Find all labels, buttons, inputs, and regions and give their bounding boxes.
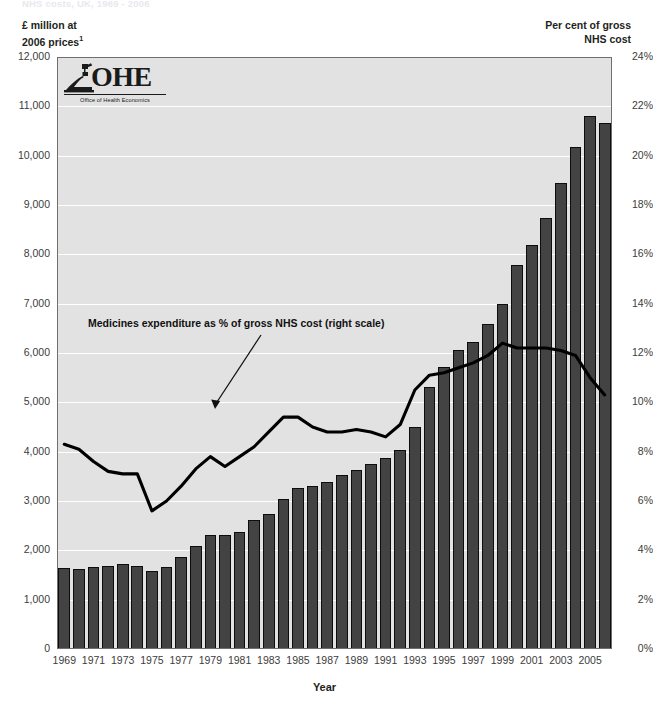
bar-2003 <box>555 183 567 649</box>
bar-2004 <box>570 147 582 649</box>
bar-1996 <box>453 350 465 649</box>
bar-1977 <box>175 557 187 649</box>
right-axis-title-line1: Per cent of gross <box>545 19 631 31</box>
bar-1998 <box>482 324 494 649</box>
bar-1992 <box>394 450 406 649</box>
left-tick-12000: 12,000 <box>0 50 50 62</box>
left-axis-title-line2: 2006 prices <box>22 36 79 48</box>
bar-1987 <box>321 482 333 649</box>
x-axis-title: Year <box>0 681 649 693</box>
ohe-wordmark: OHE <box>91 62 152 92</box>
bar-1974 <box>131 566 143 649</box>
plot-area <box>57 57 612 649</box>
left-tick-10000: 10,000 <box>0 149 50 161</box>
bar-1975 <box>146 571 158 649</box>
bar-1976 <box>161 567 173 649</box>
left-tick-0: 0 <box>0 642 50 654</box>
bar-1979 <box>205 535 217 649</box>
gridline <box>57 205 612 206</box>
line-annotation-label: Medicines expenditure as % of gross NHS … <box>88 317 384 329</box>
bar-1995 <box>438 367 450 649</box>
bar-1982 <box>248 520 260 649</box>
left-tick-8000: 8,000 <box>0 247 50 259</box>
right-tick-4pct: 4% <box>615 543 653 555</box>
bar-1981 <box>234 532 246 649</box>
bar-1980 <box>219 535 231 649</box>
bar-1989 <box>351 470 363 649</box>
left-tick-4000: 4,000 <box>0 445 50 457</box>
bar-1985 <box>292 488 304 649</box>
right-tick-2pct: 2% <box>615 593 653 605</box>
bar-1978 <box>190 546 202 649</box>
bar-1990 <box>365 464 377 649</box>
bar-2001 <box>526 245 538 649</box>
bar-1999 <box>497 304 509 649</box>
bar-1993 <box>409 427 421 649</box>
bar-1983 <box>263 514 275 649</box>
ohe-subtitle: Office of Health Economics <box>64 94 166 103</box>
chart-supertitle: NHS costs, UK, 1969 - 2006 <box>22 0 422 9</box>
bar-1984 <box>278 499 290 649</box>
right-tick-12pct: 12% <box>615 346 653 358</box>
bar-1969 <box>58 568 70 649</box>
left-tick-6000: 6,000 <box>0 346 50 358</box>
ohe-logo: OHE Office of Health Economics <box>62 62 166 106</box>
left-tick-7000: 7,000 <box>0 297 50 309</box>
bar-1970 <box>73 569 85 649</box>
gridline <box>57 156 612 157</box>
bar-2006 <box>599 123 611 649</box>
right-tick-8pct: 8% <box>615 445 653 457</box>
right-tick-18pct: 18% <box>615 198 653 210</box>
bar-1991 <box>380 458 392 649</box>
bar-2005 <box>584 116 596 649</box>
left-axis-footnote-marker: 1 <box>79 35 83 42</box>
right-axis-title: Per cent of gross NHS cost <box>545 18 631 46</box>
left-tick-5000: 5,000 <box>0 395 50 407</box>
right-tick-0pct: 0% <box>615 642 653 654</box>
right-tick-20pct: 20% <box>615 149 653 161</box>
bar-2000 <box>511 265 523 649</box>
left-axis-title-line1: £ million at <box>22 19 77 31</box>
bar-1997 <box>467 342 479 649</box>
left-tick-1000: 1,000 <box>0 593 50 605</box>
right-tick-24pct: 24% <box>615 50 653 62</box>
left-tick-3000: 3,000 <box>0 494 50 506</box>
right-tick-6pct: 6% <box>615 494 653 506</box>
bar-1972 <box>102 566 114 649</box>
right-tick-16pct: 16% <box>615 247 653 259</box>
left-axis-title: £ million at 2006 prices1 <box>22 18 83 49</box>
right-tick-10pct: 10% <box>615 395 653 407</box>
gridline <box>57 106 612 107</box>
bar-1986 <box>307 486 319 649</box>
bar-1988 <box>336 475 348 649</box>
left-tick-9000: 9,000 <box>0 198 50 210</box>
right-tick-14pct: 14% <box>615 297 653 309</box>
right-axis-title-line2: NHS cost <box>584 33 631 45</box>
bar-1994 <box>424 387 436 649</box>
left-tick-11000: 11,000 <box>0 99 50 111</box>
right-tick-22pct: 22% <box>615 99 653 111</box>
bar-2002 <box>540 218 552 649</box>
x-tick-2005: 2005 <box>570 654 610 666</box>
bar-1971 <box>88 567 100 649</box>
left-tick-2000: 2,000 <box>0 543 50 555</box>
bar-1973 <box>117 564 129 649</box>
